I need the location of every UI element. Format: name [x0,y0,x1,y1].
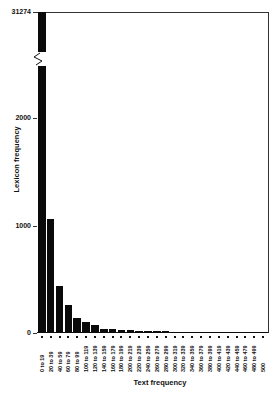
y-tick-label: 2000 [1,114,31,122]
y-tick-label: 31274 [1,8,31,16]
bar [242,332,250,333]
x-tick-label: 200 to 219 [127,345,133,372]
bar [259,332,267,333]
x-tick-mark [76,336,78,338]
x-tick-label: 20 to 39 [48,352,54,372]
x-tick-label: 260 to 279 [154,345,160,372]
x-tick-mark [147,336,149,338]
x-tick-mark [253,336,255,338]
x-tick-mark [120,336,122,338]
bar [188,332,196,333]
x-tick-label: 420 to 439 [225,345,231,372]
x-tick-mark [165,336,167,338]
x-tick-label: 120 to 139 [92,345,98,372]
x-tick-mark [191,336,193,338]
x-tick-mark [236,336,238,338]
bar [197,332,205,333]
y-tick-label: 0 [1,329,31,337]
x-tick-label: 220 to 239 [136,345,142,372]
x-tick-mark [67,336,69,338]
y-axis-title: Lexicon frequency [12,133,21,193]
axis-break-icon [30,52,48,66]
bar [250,332,258,333]
x-tick-label: 500 [260,363,266,372]
x-tick-label: 280 to 299 [163,345,169,372]
plot-area [37,12,269,333]
y-tick-label: 1000 [1,222,31,230]
x-tick-label: 360 to 379 [198,345,204,372]
x-tick-mark [112,336,114,338]
x-tick-label: 60 to 79 [65,352,71,372]
x-tick-label: 400 to 419 [216,345,222,372]
x-tick-mark [244,336,246,338]
bar-chart: 01000200031274 Lexicon frequency 0 to 19… [0,0,279,395]
x-tick-mark [262,336,264,338]
bar [118,330,126,333]
x-tick-mark [129,336,131,338]
x-axis-title: Text frequency [100,378,220,387]
bar [127,330,135,333]
x-tick-label: 320 to 339 [180,345,186,372]
x-tick-mark [174,336,176,338]
y-tick-mark [33,226,37,227]
x-tick-mark [50,336,52,338]
x-tick-label: 40 to 59 [57,352,63,372]
bar [180,332,188,333]
bar [56,286,64,333]
x-tick-label: 460 to 479 [242,345,248,372]
x-tick-label: 240 to 259 [145,345,151,372]
x-tick-label: 480 to 499 [251,345,257,372]
x-tick-label: 340 to 359 [189,345,195,372]
bar [82,322,90,333]
bar [171,332,179,333]
x-tick-mark [85,336,87,338]
x-tick-label: 140 to 159 [101,345,107,372]
bar [135,331,143,333]
x-tick-mark [59,336,61,338]
x-tick-label: 180 to 199 [118,345,124,372]
bar [65,305,73,333]
y-tick-mark [33,12,37,13]
x-tick-label: 100 to 119 [83,346,89,372]
x-tick-mark [227,336,229,338]
bar [233,332,241,333]
bar [100,329,108,333]
bar [215,332,223,333]
bar [91,325,99,333]
x-tick-label: 0 to 19 [39,355,45,372]
x-tick-mark [200,336,202,338]
x-tick-mark [103,336,105,338]
x-tick-mark [41,336,43,338]
x-tick-mark [182,336,184,338]
bar [162,331,170,333]
x-tick-label: 440 to 459 [234,345,240,372]
x-tick-label: 380 to 399 [207,345,213,372]
y-tick-mark [33,333,37,334]
bar [224,332,232,333]
x-tick-mark [209,336,211,338]
x-tick-mark [94,336,96,338]
bar [144,331,152,333]
y-tick-mark [33,118,37,119]
x-tick-label: 80 to 99 [74,352,80,372]
bar [153,331,161,333]
x-tick-label: 300 to 319 [172,345,178,372]
bar [73,318,81,333]
x-tick-mark [156,336,158,338]
bar [206,332,214,333]
x-tick-mark [218,336,220,338]
bar [47,219,55,333]
x-tick-mark [138,336,140,338]
x-tick-label: 160 to 179 [110,345,116,372]
bar [109,329,117,333]
axis-break [30,52,48,66]
